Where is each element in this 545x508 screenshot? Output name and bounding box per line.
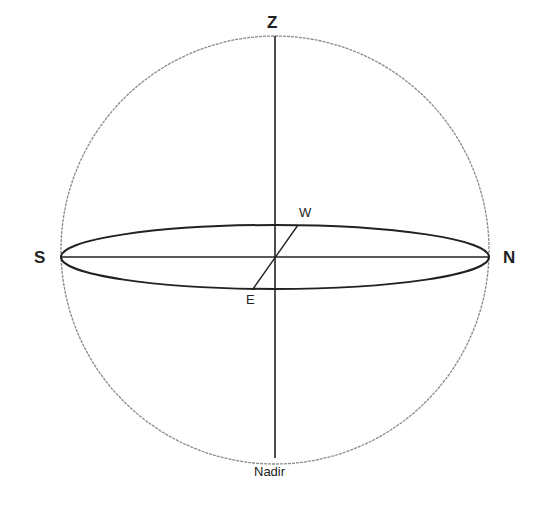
south-label: S [34, 249, 45, 266]
north-label: N [503, 249, 515, 266]
diagram-canvas [0, 0, 545, 508]
west-label: W [299, 206, 311, 219]
east-label: E [246, 293, 255, 306]
nadir-label: Nadir [254, 465, 285, 478]
zenith-label: Z [267, 14, 277, 31]
